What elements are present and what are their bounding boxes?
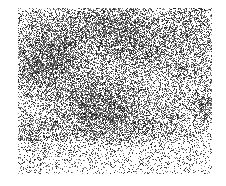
speckle-texture-image bbox=[18, 8, 212, 174]
